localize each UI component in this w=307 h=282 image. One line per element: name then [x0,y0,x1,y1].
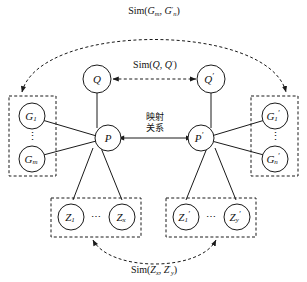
edge-p-right-to-zy-right [215,148,236,200]
sim-query-label: Sim(Q, Q′) [133,59,177,71]
latent-set-left-ellipsis: ⋯ [91,211,101,222]
graph-set-right-ellipsis: ⋮ [270,130,281,142]
node-gn-right-label: Gn′ [266,151,279,165]
node-q-left-label: Q [93,72,101,84]
node-g1-right-label: G1′ [266,108,279,122]
sim-latent-arc [93,240,216,264]
sim-latent-label: Sim(Zx, Z′y) [131,264,177,276]
mapping-relation-label-line1: 映射 [146,111,164,122]
latent-set-right-ellipsis: ⋯ [206,211,216,222]
graph-set-left-ellipsis: ⋮ [27,130,38,142]
node-p-left-label: P [104,131,112,143]
edge-p-left-to-z1-left [73,148,93,200]
diagram-svg: Q Q′ P P′ G1 ⋮ Gm G1′ ⋮ [0,0,307,282]
sim-graph-label: Sim(Gm, G′n) [128,5,180,17]
diagram-canvas: Q Q′ P P′ G1 ⋮ Gm G1′ ⋮ [0,0,307,282]
mapping-relation-label-line2: 关系 [146,122,164,133]
edge-p-left-to-zx-left [101,148,122,200]
edge-p-right-to-z1-right [186,148,207,200]
